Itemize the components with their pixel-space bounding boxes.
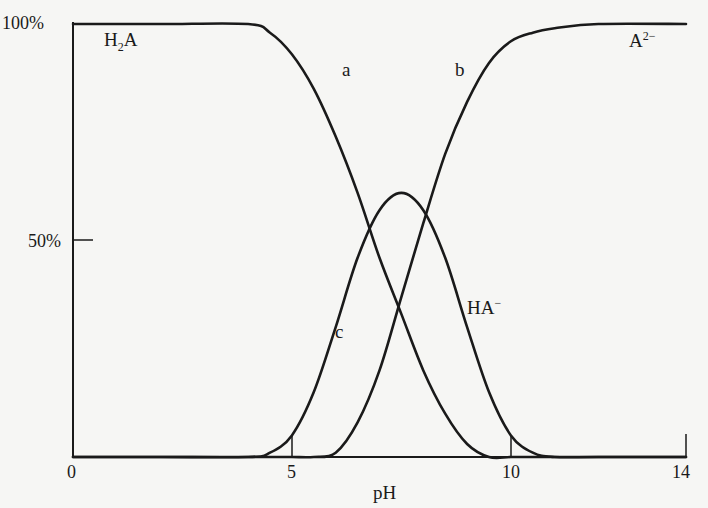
x-axis-label: pH (373, 483, 396, 502)
y-tick-label-100: 100% (2, 14, 44, 32)
species-label-ha: HA− (467, 297, 501, 317)
curve-label-a: a (342, 60, 350, 79)
species-label-h2a: H2A (104, 30, 137, 53)
x-tick-label-14: 14 (672, 463, 690, 481)
x-tick-label-10: 10 (502, 463, 520, 481)
y-tick-label-50: 50% (28, 232, 61, 250)
curve-label-b: b (455, 60, 465, 79)
x-tick-label-5: 5 (287, 463, 296, 481)
x-tick-label-0: 0 (67, 463, 76, 481)
curve-c (73, 193, 686, 457)
ha-main: HA (467, 297, 494, 318)
species-label-a2: A2− (629, 30, 656, 50)
ha-sup: − (494, 296, 501, 310)
a2-main: A (629, 30, 643, 51)
a2-sup: 2− (643, 29, 656, 43)
h2a-tail: A (124, 29, 138, 50)
curve-label-c: c (335, 322, 343, 341)
curve-a (73, 23, 686, 458)
h2a-main: H (104, 29, 118, 50)
plot-area (0, 0, 708, 508)
curve-b (73, 24, 686, 458)
